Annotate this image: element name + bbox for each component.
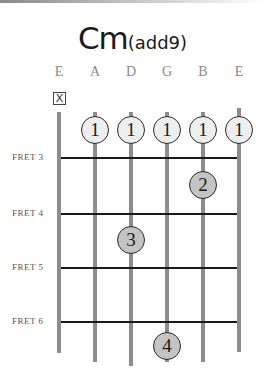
fret-line (61, 321, 237, 323)
string-label: A (85, 64, 105, 80)
fret-line (61, 267, 237, 269)
fret-label: FRET 4 (12, 208, 44, 218)
finger-position-dot: 2 (189, 171, 217, 199)
finger-position-dot: 3 (117, 226, 145, 254)
fret-line (61, 157, 237, 159)
chord-title: Cm(add9) (0, 20, 265, 56)
guitar-string (57, 112, 61, 353)
finger-position-dot: 1 (81, 116, 109, 144)
fret-label: FRET 5 (12, 262, 44, 272)
finger-position-dot: 4 (153, 332, 181, 360)
chord-suffix: (add9) (128, 32, 187, 53)
finger-position-dot: 1 (117, 116, 145, 144)
chord-name: Cm (78, 20, 128, 56)
finger-position-dot: 1 (225, 116, 253, 144)
fret-line (61, 213, 237, 215)
fret-label: FRET 6 (12, 316, 44, 326)
guitar-string (201, 112, 205, 362)
finger-position-dot: 1 (189, 116, 217, 144)
string-label: D (121, 64, 141, 80)
string-label: G (157, 64, 177, 80)
muted-string-marker: X (53, 92, 66, 105)
finger-position-dot: 1 (153, 116, 181, 144)
string-label: B (193, 64, 213, 80)
top-border (0, 0, 265, 3)
guitar-string (93, 112, 97, 362)
string-label: E (49, 64, 69, 80)
guitar-string (237, 108, 241, 352)
fret-label: FRET 3 (12, 152, 44, 162)
guitar-string (165, 112, 169, 362)
string-label: E (229, 64, 249, 80)
